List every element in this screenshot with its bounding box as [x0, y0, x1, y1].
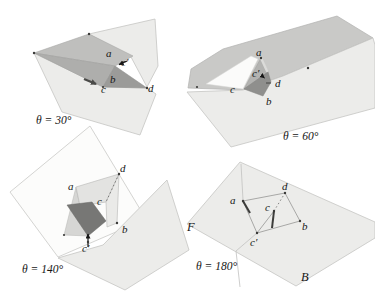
theta-label-30: θ = 30° [36, 114, 72, 126]
region-label-back: B [301, 270, 309, 284]
point-label-c-prime-60: c′ [252, 67, 260, 79]
point-label-a-60: a [256, 46, 262, 58]
point-label-a-30: a [106, 47, 112, 59]
point-label-c-30: c [101, 83, 106, 95]
panel-theta-30: a c′ b c d θ = 30° [33, 19, 158, 135]
point-label-c-prime-140: c′ [82, 242, 90, 254]
panel-theta-140: a d c b c′ θ = 140° [10, 126, 189, 290]
point-label-b-140: b [122, 223, 128, 235]
point-label-d-140: d [120, 162, 126, 174]
point-label-b-180: b [302, 220, 308, 232]
theta-label-180: θ = 180° [196, 260, 237, 272]
theta-label-140: θ = 140° [22, 263, 63, 275]
point-label-c-prime-180: c′ [250, 236, 258, 248]
point-label-c-prime-30: c′ [121, 56, 129, 68]
point-label-a-180: a [230, 194, 236, 206]
panel-theta-180: a d c b c′ F B θ = 180° [186, 162, 375, 287]
region-label-front: F [186, 220, 195, 234]
point-label-d-180: d [282, 180, 288, 192]
point-label-c-60: c [230, 83, 235, 95]
point-label-c-140: c [97, 195, 102, 207]
point-label-d-60: d [275, 77, 281, 89]
point-label-a-140: a [68, 180, 74, 192]
point-label-c-180: c [265, 201, 270, 213]
point-label-b-60: b [266, 95, 272, 107]
panel-theta-60: a c′ c d b θ = 60° [187, 16, 375, 147]
point-label-b-30: b [110, 73, 116, 85]
theta-label-60: θ = 60° [283, 130, 319, 142]
point-label-d-30: d [148, 82, 154, 94]
folding-figure: a c′ b c d θ = 30° a c′ c d b θ = 60° [0, 0, 375, 300]
folding-diagram-svg: a c′ b c d θ = 30° a c′ c d b θ = 60° [0, 0, 375, 300]
